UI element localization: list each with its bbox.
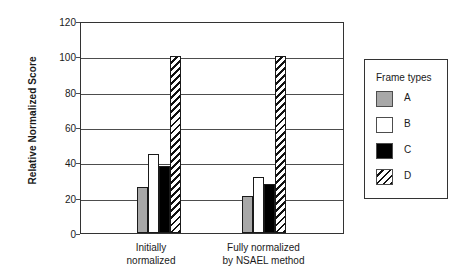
- legend-label-A: A: [404, 92, 411, 103]
- gridline-20: [81, 200, 343, 201]
- bar-group-initially-normalized: [137, 23, 187, 233]
- y-tick-label-40: 40: [36, 158, 76, 169]
- x-axis-label-initially-normalized: Initially normalized: [101, 241, 201, 267]
- bar-chart-figure: Relative Normalized Score 120 100 80 60 …: [0, 0, 465, 280]
- legend-label-D: D: [404, 170, 411, 181]
- bar-fully-normalized-D[interactable]: [275, 56, 286, 233]
- bar-fully-normalized-B[interactable]: [253, 177, 264, 234]
- legend-label-B: B: [404, 118, 411, 129]
- bar-initially-normalized-A[interactable]: [137, 187, 148, 233]
- bar-fully-normalized-A[interactable]: [242, 196, 253, 233]
- legend-title: Frame types: [376, 72, 432, 83]
- black-square-swatch: [376, 143, 393, 159]
- bar-initially-normalized-B[interactable]: [148, 154, 159, 234]
- gridline-60: [81, 129, 343, 130]
- y-tick-label-20: 20: [36, 193, 76, 204]
- legend-label-C: C: [404, 144, 411, 155]
- y-tick-label-60: 60: [36, 123, 76, 134]
- gridline-40: [81, 164, 343, 165]
- bar-group-fully-normalized: [242, 23, 292, 233]
- y-tick-label-100: 100: [36, 52, 76, 63]
- gridline-100: [81, 58, 343, 59]
- bar-initially-normalized-C[interactable]: [159, 166, 170, 233]
- hatched-square-swatch: [376, 169, 393, 185]
- y-tick-label-0: 0: [36, 229, 76, 240]
- bar-fully-normalized-C[interactable]: [264, 184, 275, 234]
- y-tick-label-80: 80: [36, 87, 76, 98]
- y-tick-label-120: 120: [36, 17, 76, 28]
- gray-square-swatch: [376, 91, 393, 107]
- bar-initially-normalized-D[interactable]: [170, 56, 181, 233]
- gridline-80: [81, 94, 343, 95]
- white-square-swatch: [376, 117, 393, 133]
- legend-box: Frame types A B C D: [364, 59, 448, 199]
- plot-area: [80, 22, 344, 234]
- y-tick-mark-0: [76, 234, 80, 235]
- x-axis-label-fully-normalized: Fully normalized by NSAEL method: [196, 241, 331, 267]
